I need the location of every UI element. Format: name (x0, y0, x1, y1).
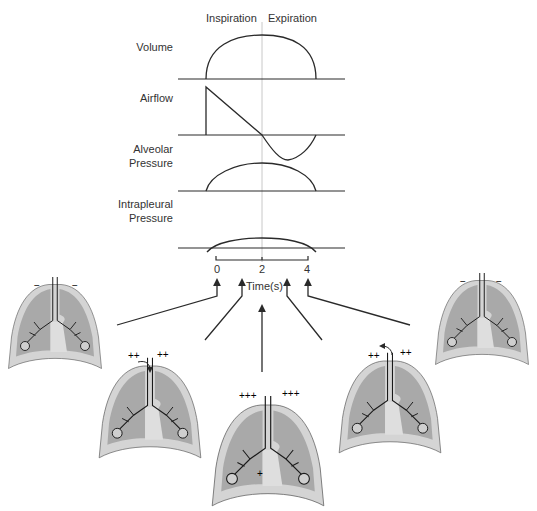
charge-center-l: +++ (239, 390, 257, 401)
charge-far-left-r: − (72, 280, 78, 291)
lung-stage-right (339, 353, 441, 453)
charge-right-l: ++ (368, 350, 380, 361)
airflow-trace (206, 87, 316, 160)
charge-far-right-r: − (496, 276, 502, 287)
air-out-arrow (382, 346, 392, 355)
charge-far-left-l: − (34, 280, 40, 291)
charge-left-r: ++ (157, 349, 169, 360)
charge-center-r: +++ (282, 388, 300, 399)
charge-center-bottom: + (257, 468, 263, 479)
lung-stage-far-right (436, 273, 529, 365)
lung-stage-center (212, 396, 324, 506)
volume-trace (206, 35, 316, 79)
lung-stage-left (99, 358, 201, 458)
charge-right-r: ++ (400, 347, 412, 358)
charge-far-right-l: − (460, 276, 466, 287)
lung-stage-far-left (9, 277, 102, 369)
charge-left-l: ++ (128, 350, 140, 361)
diagram-canvas (0, 0, 537, 511)
alveolar-trace (206, 163, 316, 191)
